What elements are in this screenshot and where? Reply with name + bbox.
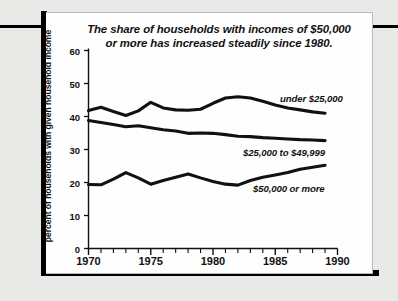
series-line-1 bbox=[89, 120, 326, 140]
series-label: $50,000 or more bbox=[253, 183, 325, 194]
series-label: $25,000 to $49,999 bbox=[243, 147, 325, 158]
series-label: under $25,000 bbox=[280, 93, 343, 104]
chart-plate: The share of households with incomes of … bbox=[0, 0, 398, 301]
plot-area bbox=[0, 0, 398, 301]
